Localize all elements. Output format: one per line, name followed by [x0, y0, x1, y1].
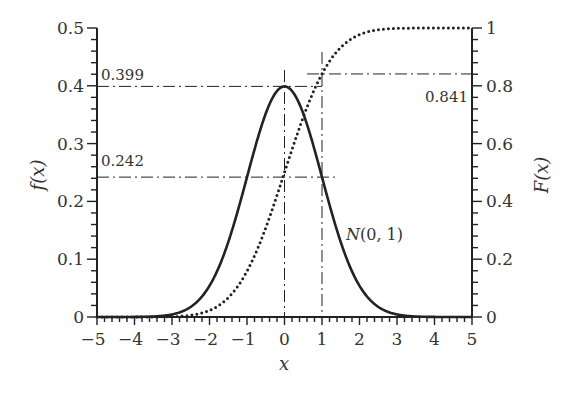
- labels: 0.399 0.242 0.841 N(0, 1) x f(x) F(x): [27, 66, 552, 374]
- annotation-density-at-one: 0.242: [101, 152, 144, 170]
- curve-label-n01: N(0, 1): [345, 225, 403, 244]
- x-tick-label: −2: [193, 329, 218, 349]
- x-tick-label: 5: [467, 329, 478, 349]
- y-left-tick-label: 0.4: [57, 76, 84, 96]
- y-axis-right-title: F(x): [531, 157, 552, 195]
- x-tick-label: 0: [279, 329, 290, 349]
- y-right-tick-label: 0.4: [486, 191, 513, 211]
- y-left-tick-label: 0.1: [57, 249, 84, 269]
- y-left-tick-label: 0.5: [57, 18, 84, 38]
- x-tick-label: 4: [429, 329, 440, 349]
- x-tick-label: −5: [80, 329, 105, 349]
- x-tick-label: 2: [354, 329, 365, 349]
- y-left-tick-label: 0: [73, 307, 84, 327]
- x-tick-label: 3: [392, 329, 403, 349]
- x-tick-label: 1: [317, 329, 328, 349]
- annotation-peak-density: 0.399: [101, 66, 144, 84]
- y-right-tick-label: 0.2: [486, 249, 513, 269]
- y-right-tick-label: 0.6: [486, 134, 513, 154]
- x-axis-title: x: [279, 353, 289, 374]
- x-tick-label: −3: [155, 329, 180, 349]
- y-right-tick-label: 1: [486, 18, 497, 38]
- normal-distribution-chart: −5−4−3−2−101234500.10.20.30.40.500.20.40…: [0, 0, 567, 404]
- y-right-tick-label: 0: [486, 307, 497, 327]
- y-left-tick-label: 0.3: [57, 134, 84, 154]
- y-left-tick-label: 0.2: [57, 191, 84, 211]
- x-tick-label: −1: [230, 329, 255, 349]
- y-right-tick-label: 0.8: [486, 76, 513, 96]
- annotation-cdf-at-one: 0.841: [425, 88, 468, 106]
- x-tick-label: −4: [118, 329, 143, 349]
- y-axis-left-title: f(x): [27, 160, 48, 193]
- guide-lines: [97, 52, 472, 317]
